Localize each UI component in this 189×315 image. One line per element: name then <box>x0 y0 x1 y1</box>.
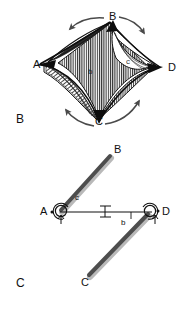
rod-ab <box>61 156 110 210</box>
panel-c-schematic <box>51 156 160 277</box>
panel-b-vertex-a-label: A <box>33 59 40 70</box>
point-dot-d <box>157 210 160 213</box>
rod-ab-shadow <box>62 158 111 212</box>
rod-dc-shadow <box>90 216 149 277</box>
panel-c-angle-label-b: b <box>121 219 125 227</box>
panel-c-vertex-a-label: A <box>40 206 47 217</box>
panel-label-c: C <box>16 277 25 289</box>
figure-root: A B C D b c B A B C D c b C <box>0 0 189 315</box>
panel-c-vertex-b-label: B <box>114 144 121 155</box>
panel-b-vertex-d-label: D <box>168 62 176 73</box>
panel-b-vertex-c-label: C <box>95 116 103 127</box>
rod-dc <box>89 214 148 275</box>
panel-c-graphic <box>0 0 189 315</box>
panel-b-inner-label-b: b <box>88 68 92 76</box>
panel-c-vertex-d-label: D <box>162 206 170 217</box>
panel-b-inner-label-c: c <box>126 58 130 66</box>
panel-c-vertex-c-label: C <box>81 277 89 288</box>
panel-b-vertex-b-label: B <box>109 11 116 22</box>
panel-c-angle-label-c: c <box>75 194 79 202</box>
point-dot-a <box>51 211 54 214</box>
panel-label-b: B <box>16 113 24 125</box>
